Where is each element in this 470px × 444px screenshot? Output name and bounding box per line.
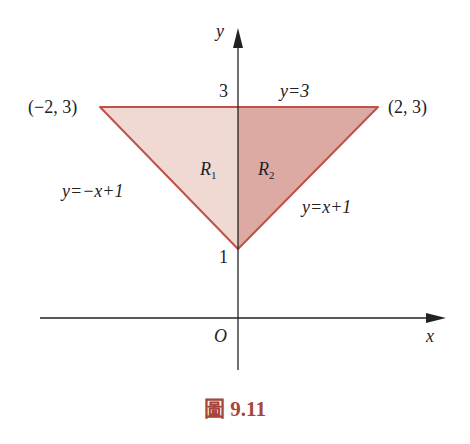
y-tick-1: 1	[219, 248, 228, 266]
diagram-canvas	[0, 0, 470, 444]
line-right-label: y=x+1	[302, 198, 351, 216]
region1-label: R1	[200, 160, 217, 178]
y-axis-arrow-icon	[233, 28, 243, 48]
region2-label: R2	[258, 160, 275, 178]
line-top-label: y=3	[280, 82, 309, 100]
region2-letter: R	[258, 159, 269, 179]
line-left-label: y=−x+1	[62, 182, 123, 200]
figure-caption: 圖 9.11	[0, 392, 470, 422]
vertex-left-label: (−2, 3)	[28, 98, 77, 116]
y-axis-label: y	[216, 22, 224, 40]
y-tick-3: 3	[219, 82, 228, 100]
x-axis-label: x	[426, 327, 434, 345]
vertex-right-label: (2, 3)	[388, 98, 427, 116]
region1-letter: R	[200, 159, 211, 179]
x-axis-arrow-icon	[426, 313, 446, 323]
origin-label: O	[214, 327, 227, 345]
region2-subscript: 2	[269, 169, 275, 181]
region1-subscript: 1	[211, 169, 217, 181]
